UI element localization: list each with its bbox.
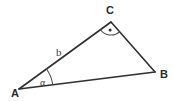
triangle-diagram: A B C b α bbox=[0, 0, 174, 101]
triangle-side-bc bbox=[111, 22, 155, 72]
triangle-canvas: A B C b α bbox=[0, 0, 174, 101]
vertex-label-b: B bbox=[160, 68, 168, 80]
side-label-b: b bbox=[56, 46, 62, 58]
angle-label-alpha: α bbox=[40, 77, 46, 88]
right-angle-dot-icon bbox=[109, 29, 112, 32]
vertex-label-a: A bbox=[11, 87, 19, 99]
angle-arc-alpha bbox=[47, 69, 53, 85]
vertex-label-c: C bbox=[106, 4, 114, 16]
